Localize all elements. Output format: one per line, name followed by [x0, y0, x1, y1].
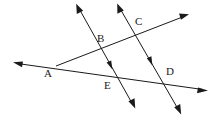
arrowhead-right-of-D	[197, 88, 208, 94]
direction-tick-CD	[147, 56, 153, 65]
arrowhead-bottom-of-BE	[128, 98, 135, 108]
geometry-figure: A B C D E	[0, 0, 214, 121]
point-label-B: B	[97, 33, 104, 44]
ray-through-A-B-C	[56, 14, 189, 66]
direction-tick-BE	[107, 61, 113, 70]
arrowhead-upper-right	[179, 14, 189, 20]
point-label-E: E	[104, 80, 111, 91]
point-label-C: C	[135, 16, 142, 27]
point-label-A: A	[44, 68, 52, 79]
arrowhead-top-of-BE	[76, 4, 83, 14]
transversal-through-C-and-D	[117, 4, 181, 115]
geometry-canvas	[0, 0, 214, 121]
arrowhead-left-of-A	[13, 61, 23, 67]
point-label-D: D	[166, 66, 174, 77]
arrowhead-bottom-of-CD	[174, 104, 181, 114]
arrowhead-top-of-CD	[117, 4, 124, 14]
segment-ABC	[56, 17, 183, 66]
